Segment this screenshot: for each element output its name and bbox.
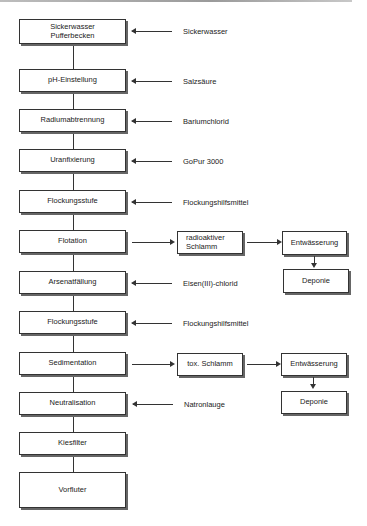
input-arrow-line xyxy=(132,161,172,162)
step-radiumabtrennung: Radiumabtrennung xyxy=(19,109,126,132)
step-neutralisation: Neutralisation xyxy=(19,392,126,415)
landfill-box-1: Deponie xyxy=(283,269,349,293)
input-arrow-line xyxy=(132,121,172,122)
radioactive-sludge-box: radioaktiver Schlamm xyxy=(177,231,243,254)
arrow-left-icon xyxy=(131,118,136,124)
input-arrow-line xyxy=(132,31,172,32)
step-uranfixierung: Uranfixierung xyxy=(19,149,126,172)
arrow-left-icon xyxy=(131,320,136,326)
landfill-box-2: Deponie xyxy=(281,391,347,414)
arrow-right-icon xyxy=(170,361,175,367)
output-arrow-line xyxy=(247,242,278,243)
input-arrow-line xyxy=(132,323,172,324)
arrow-left-icon xyxy=(131,28,136,34)
step-sedimentation: Sedimentation xyxy=(19,352,126,375)
step-sickerwasser-pufferbecken: Sickerwasser Pufferbecken xyxy=(19,19,126,44)
arrow-left-icon xyxy=(131,78,136,84)
arrow-left-icon xyxy=(132,401,137,407)
input-label-eisen-chlorid: Eisen(III)-chlorid xyxy=(183,279,238,288)
input-arrow-line xyxy=(133,404,173,405)
dewatering-box-2: Entwässerung xyxy=(281,353,347,376)
step-ph-einstellung: pH-Einstellung xyxy=(19,69,126,92)
input-arrow-line xyxy=(132,283,172,284)
output-arrow-line xyxy=(132,242,172,243)
output-arrow-line xyxy=(247,364,278,365)
input-arrow-line xyxy=(132,81,172,82)
step-flockungsstufe-2: Flockungsstufe xyxy=(19,311,126,334)
input-label-sickerwasser: Sickerwasser xyxy=(183,27,228,36)
arrow-left-icon xyxy=(131,158,136,164)
input-label-flockungshilfsmittel-2: Flockungshilfsmittel xyxy=(183,319,248,328)
toxic-sludge-box: tox. Schlamm xyxy=(177,353,243,376)
input-label-natronlauge: Natronlauge xyxy=(184,400,225,409)
step-flockungsstufe-1: Flockungsstufe xyxy=(19,190,126,213)
arrow-right-icon xyxy=(170,239,175,245)
step-arsenatfaellung: Arsenatfällung xyxy=(19,271,126,294)
input-label-bariumchlorid: Bariumchlorid xyxy=(183,117,229,126)
output-arrow-line xyxy=(132,364,172,365)
step-flotation: Flotation xyxy=(19,230,126,253)
input-label-flockungshilfsmittel-1: Flockungshilfsmittel xyxy=(183,198,248,207)
input-label-gopur: GoPur 3000 xyxy=(183,157,223,166)
arrow-left-icon xyxy=(131,280,136,286)
input-label-salzsaeure: Salzsäure xyxy=(183,77,216,86)
top-border-line xyxy=(0,0,352,2)
step-vorfluter: Vorfluter xyxy=(19,472,126,508)
dewatering-box-1: Entwässerung xyxy=(282,231,347,255)
arrow-left-icon xyxy=(131,199,136,205)
input-arrow-line xyxy=(132,202,172,203)
arrow-down-icon xyxy=(310,384,316,389)
arrow-down-icon xyxy=(311,263,317,268)
step-kiesfilter: Kiesfilter xyxy=(19,432,126,455)
